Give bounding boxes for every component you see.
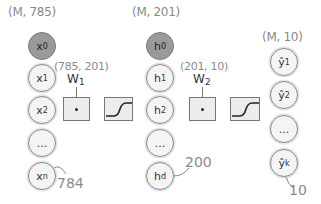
- hidden-node-bias: h0: [146, 32, 174, 60]
- output-node-2: ŷ2: [270, 81, 298, 109]
- output-count-annotation: 10: [289, 182, 307, 198]
- sigmoid-2-box: [230, 97, 260, 121]
- output-node-ellipsis: ...: [270, 115, 298, 143]
- hidden-shape-label: (M, 201): [132, 5, 180, 19]
- hidden-node-ellipsis: ...: [146, 129, 174, 157]
- input-node-1: x1: [28, 64, 56, 92]
- sigmoid-1-box: [104, 97, 133, 121]
- hidden-node-d: hd: [146, 162, 174, 190]
- weights-1-label: W1: [67, 72, 85, 87]
- dot-product-icon: [201, 108, 204, 111]
- weights-1-dot-box: [63, 97, 90, 121]
- output-node-1: ŷ1: [270, 48, 298, 76]
- hidden-node-1: h1: [146, 64, 174, 92]
- hidden-count-annotation: 200: [185, 154, 212, 170]
- weights-2-label: W2: [193, 72, 211, 87]
- input-node-2: x2: [28, 96, 56, 124]
- input-node-bias: x0: [28, 32, 56, 60]
- weights-1-stem: [76, 87, 77, 97]
- sigmoid-icon: [231, 98, 259, 120]
- dot-product-icon: [75, 108, 78, 111]
- output-node-k: ŷk: [270, 149, 298, 177]
- output-shape-label: (M, 10): [262, 30, 303, 44]
- input-shape-label: (M, 785): [8, 5, 56, 19]
- input-node-ellipsis: ...: [28, 129, 56, 157]
- weights-2-dot-box: [189, 97, 216, 121]
- weights-2-stem: [202, 87, 203, 97]
- hidden-node-2: h2: [146, 96, 174, 124]
- sigmoid-icon: [105, 98, 132, 120]
- input-count-annotation: 784: [57, 175, 84, 191]
